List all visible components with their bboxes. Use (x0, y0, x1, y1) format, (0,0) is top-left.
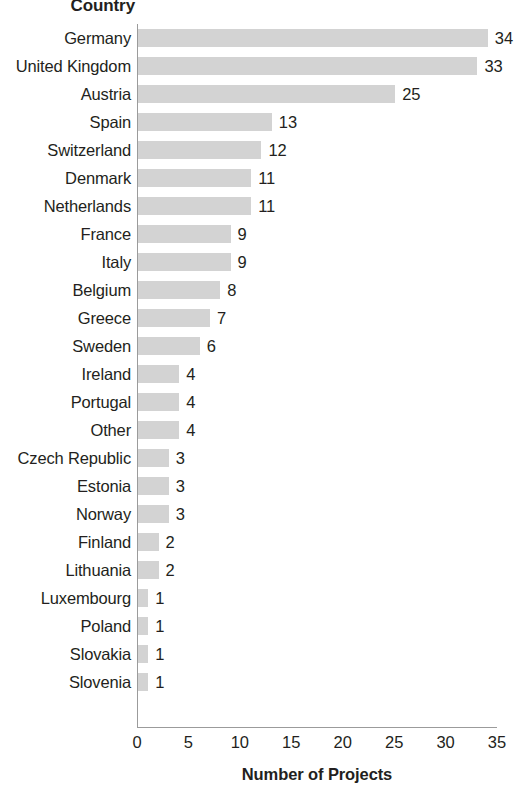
bar-row: Italy9 (137, 248, 521, 276)
category-label: Portugal (71, 388, 131, 416)
bar-value-label: 9 (238, 220, 247, 248)
category-label: Lithuania (65, 556, 131, 584)
bar-value-label: 13 (279, 108, 297, 136)
bar (138, 505, 169, 523)
bar-row: Slovenia1 (137, 668, 521, 696)
bar-value-label: 1 (155, 640, 164, 668)
bar-row: Other4 (137, 416, 521, 444)
bar (138, 309, 210, 327)
bar (138, 561, 159, 579)
x-tick-label: 0 (117, 733, 157, 752)
x-tick-label: 5 (168, 733, 208, 752)
bar-value-label: 4 (186, 388, 195, 416)
bar-value-label: 1 (155, 668, 164, 696)
bar-row: Estonia3 (137, 472, 521, 500)
bar-row: Czech Republic3 (137, 444, 521, 472)
bar-value-label: 1 (155, 584, 164, 612)
bar-row: Netherlands11 (137, 192, 521, 220)
x-axis-line (137, 727, 497, 728)
x-tick-label: 30 (426, 733, 466, 752)
bar (138, 225, 231, 243)
bar-row: Finland2 (137, 528, 521, 556)
bar (138, 365, 179, 383)
bar-chart: Country Germany34United Kingdom33Austria… (0, 0, 521, 805)
bar-row: Germany34 (137, 24, 521, 52)
bar (138, 253, 231, 271)
bar-row: Poland1 (137, 612, 521, 640)
category-label: Greece (78, 304, 131, 332)
category-label: Luxembourg (41, 584, 131, 612)
bar (138, 393, 179, 411)
bar (138, 477, 169, 495)
category-label: Ireland (82, 360, 131, 388)
bar-row: Austria25 (137, 80, 521, 108)
x-tick-label: 25 (374, 733, 414, 752)
bar-value-label: 9 (238, 248, 247, 276)
category-label: Poland (81, 612, 131, 640)
bar-value-label: 11 (258, 192, 275, 220)
bar-value-label: 2 (166, 528, 175, 556)
bar (138, 673, 148, 691)
category-label: Austria (81, 80, 131, 108)
x-tick-label: 10 (220, 733, 260, 752)
bar (138, 421, 179, 439)
bar (138, 169, 251, 187)
category-label: Slovenia (69, 668, 131, 696)
bar (138, 281, 220, 299)
bar (138, 449, 169, 467)
bar (138, 197, 251, 215)
category-label: Switzerland (47, 136, 131, 164)
bar (138, 57, 477, 75)
bar-row: Ireland4 (137, 360, 521, 388)
category-label: Slovakia (70, 640, 131, 668)
bar (138, 617, 148, 635)
bar-row: Switzerland12 (137, 136, 521, 164)
category-label: Denmark (65, 164, 131, 192)
bar-row: Luxembourg1 (137, 584, 521, 612)
bar (138, 589, 148, 607)
bar-row: Slovakia1 (137, 640, 521, 668)
bar (138, 141, 261, 159)
bar-value-label: 4 (186, 416, 195, 444)
bar (138, 85, 395, 103)
x-tick-label: 20 (323, 733, 363, 752)
bar (138, 113, 272, 131)
bar-row: Norway3 (137, 500, 521, 528)
bar (138, 29, 488, 47)
x-tick-label: 15 (271, 733, 311, 752)
bar-row: Belgium8 (137, 276, 521, 304)
bar-value-label: 12 (268, 136, 286, 164)
category-label: Sweden (72, 332, 131, 360)
bar-row: Denmark11 (137, 164, 521, 192)
category-label: Spain (90, 108, 131, 136)
bar-value-label: 25 (402, 80, 420, 108)
bar (138, 533, 159, 551)
bar (138, 337, 200, 355)
bar-value-label: 4 (186, 360, 195, 388)
x-tick-label: 35 (477, 733, 517, 752)
category-label: Germany (64, 24, 131, 52)
bar-row: Portugal4 (137, 388, 521, 416)
bar-row: Greece7 (137, 304, 521, 332)
category-label: United Kingdom (16, 52, 131, 80)
bar-value-label: 7 (217, 304, 226, 332)
category-label: Czech Republic (18, 444, 131, 472)
bar (138, 645, 148, 663)
bar-value-label: 1 (155, 612, 164, 640)
category-label: Norway (76, 500, 131, 528)
category-label: France (81, 220, 131, 248)
bar-row: France9 (137, 220, 521, 248)
category-label: Netherlands (44, 192, 131, 220)
category-label: Finland (78, 528, 131, 556)
category-label: Other (90, 416, 131, 444)
plot-area: Germany34United Kingdom33Austria25Spain1… (137, 24, 521, 728)
bar-row: Lithuania2 (137, 556, 521, 584)
category-label: Estonia (77, 472, 131, 500)
bar-value-label: 33 (484, 52, 502, 80)
bar-value-label: 3 (176, 500, 185, 528)
y-axis-title: Country (0, 0, 135, 16)
category-label: Belgium (72, 276, 131, 304)
category-label: Italy (101, 248, 131, 276)
bar-value-label: 3 (176, 472, 185, 500)
bar-row: Spain13 (137, 108, 521, 136)
